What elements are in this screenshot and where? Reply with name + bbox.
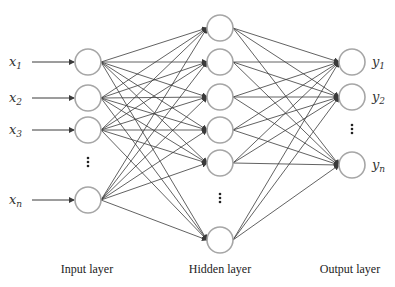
ellipsis-dot [351,124,354,127]
edge [233,163,339,165]
hidden-node [207,49,233,75]
input-node [75,117,101,143]
input-node [75,85,101,111]
edge [101,200,207,240]
edge [233,62,339,240]
input-variable-label: x3 [9,122,22,139]
neural-network-diagram: x1x2x3xny1y2yn Input layerHidden layerOu… [0,0,395,287]
edge [233,97,339,240]
edge [101,62,207,200]
edge [233,28,339,165]
edge [101,97,207,98]
hidden-node [207,84,233,110]
neuron-nodes [75,15,365,253]
input-variable-label: x1 [9,54,22,71]
ellipsis-dot [87,161,90,164]
variable-labels: x1x2x3xny1y2yn [9,54,385,209]
input-node [75,187,101,213]
ellipsis-dot [351,132,354,135]
output-node [339,49,365,75]
edge [101,62,207,240]
input-layer-label: Input layer [61,262,113,276]
hidden-node [207,227,233,253]
hidden-layer-label: Hidden layer [189,262,251,276]
edge [233,165,339,240]
input-arrows [32,62,74,200]
layer-labels: Input layerHidden layerOutput layer [61,262,380,276]
output-variable-label: y1 [371,54,385,71]
edge [233,62,339,130]
hidden-node [207,15,233,41]
edge [101,98,207,240]
ellipsis-dot [87,165,90,168]
edge [233,28,339,62]
ellipsis-dot [351,128,354,131]
output-variable-label: y2 [371,89,385,106]
input-variable-label: x2 [9,90,22,107]
ellipsis-dot [87,157,90,160]
edge [233,97,339,130]
ellipsis-dot [219,201,222,204]
output-node [339,152,365,178]
edge [101,28,207,98]
edge [233,28,339,97]
edge [101,28,207,200]
output-node [339,84,365,110]
edge [101,28,207,62]
hidden-node [207,117,233,143]
input-variable-label: xn [9,192,22,209]
ellipsis-dot [219,197,222,200]
output-layer-label: Output layer [320,262,380,276]
ellipsis-dot [219,193,222,196]
hidden-node [207,150,233,176]
output-variable-label: yn [371,157,385,174]
edge [101,130,207,200]
input-node [75,49,101,75]
